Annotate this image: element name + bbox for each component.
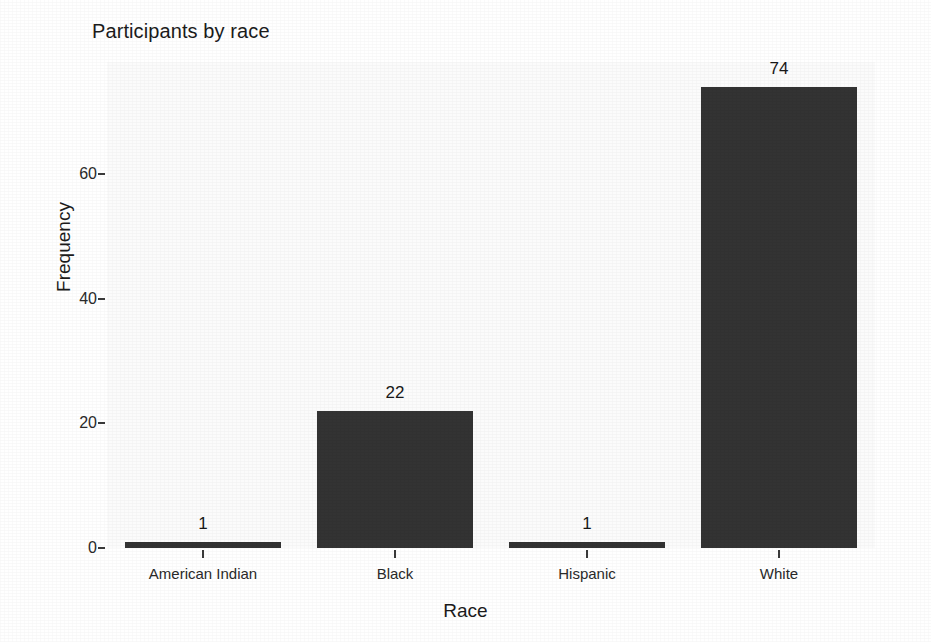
x-axis-tick-mark xyxy=(202,550,204,558)
bar xyxy=(509,542,665,548)
x-axis-tick-label: Hispanic xyxy=(558,565,616,582)
y-axis-tick-label: 0 xyxy=(88,539,97,557)
y-axis-tick-label: 60 xyxy=(79,165,97,183)
bar-value-label: 74 xyxy=(770,59,789,79)
x-axis-tick-mark xyxy=(394,550,396,558)
bar-value-label: 1 xyxy=(582,514,591,534)
y-axis-tick-mark xyxy=(98,422,105,424)
x-axis-title: Race xyxy=(0,600,931,622)
y-axis-tick-mark xyxy=(98,298,105,300)
x-axis-tick-mark xyxy=(586,550,588,558)
plot-area: 02040601American Indian22Black1Hispanic7… xyxy=(107,62,875,548)
bar xyxy=(701,87,857,548)
plot-panel: 02040601American Indian22Black1Hispanic7… xyxy=(107,62,875,548)
y-axis-tick-label: 20 xyxy=(79,414,97,432)
y-axis-tick-mark xyxy=(98,547,105,549)
bar xyxy=(125,542,281,548)
bar-chart: Participants by race Frequency 02040601A… xyxy=(0,0,931,642)
bar-value-label: 1 xyxy=(198,514,207,534)
x-axis-tick-mark xyxy=(778,550,780,558)
y-axis-tick-mark xyxy=(98,173,105,175)
bar-value-label: 22 xyxy=(386,383,405,403)
chart-title: Participants by race xyxy=(92,20,270,43)
x-axis-tick-label: Black xyxy=(377,565,414,582)
y-axis-title: Frequency xyxy=(53,177,75,317)
x-axis-tick-label: White xyxy=(760,565,798,582)
bar xyxy=(317,411,473,548)
y-axis-tick-label: 40 xyxy=(79,290,97,308)
x-axis-tick-label: American Indian xyxy=(149,565,257,582)
